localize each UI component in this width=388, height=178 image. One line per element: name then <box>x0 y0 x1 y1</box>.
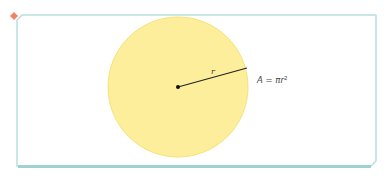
center-point <box>176 85 180 89</box>
circle-area-diagram: r A = πr2 <box>0 0 388 178</box>
formula-lhs: A = π <box>256 75 281 85</box>
formula-label: A = πr2 <box>256 75 287 86</box>
formula-exponent: 2 <box>284 75 288 81</box>
corner-marker-icon <box>10 12 18 20</box>
